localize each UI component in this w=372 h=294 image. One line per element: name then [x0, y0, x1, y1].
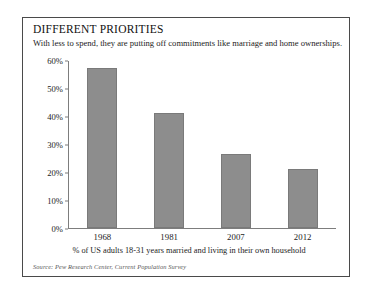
x-axis-tick-label: 2007 — [203, 232, 270, 242]
bar-series — [69, 61, 336, 228]
x-axis-tick-label: 1981 — [136, 232, 203, 242]
x-axis-tick-label: 2012 — [269, 232, 336, 242]
y-axis-tick-label: 30% — [47, 140, 63, 150]
x-axis-line — [68, 228, 336, 229]
bar-1981[interactable] — [154, 113, 184, 228]
source-note: Source: Pew Research Center, Current Pop… — [33, 263, 186, 270]
y-axis-tick-label: 40% — [47, 112, 63, 122]
y-axis-tick-mark — [65, 201, 68, 202]
bar-2007[interactable] — [221, 154, 251, 228]
y-axis-tick-mark — [65, 61, 68, 62]
axis-caption: % of US adults 18-31 years married and l… — [33, 246, 345, 255]
bar-slot — [269, 61, 336, 228]
bar-slot — [203, 61, 270, 228]
y-axis-tick-label: 10% — [47, 196, 63, 206]
y-axis-tick-label: 60% — [47, 56, 63, 66]
bar-2012[interactable] — [288, 169, 318, 228]
x-axis-tick-label: 1968 — [69, 232, 136, 242]
chart-figure: DIFFERENT PRIORITIES With less to spend,… — [22, 17, 350, 277]
chart-subtitle: With less to spend, they are putting off… — [33, 38, 345, 48]
x-axis-labels: 1968198120072012 — [69, 232, 336, 242]
bar-slot — [136, 61, 203, 228]
y-axis-tick-mark — [65, 145, 68, 146]
y-axis-tick-label: 20% — [47, 168, 63, 178]
bar-1968[interactable] — [87, 68, 117, 228]
y-axis-tick-label: 0% — [52, 224, 63, 234]
y-axis-tick-mark — [65, 89, 68, 90]
y-axis-tick-mark — [65, 117, 68, 118]
y-axis-tick-mark — [65, 229, 68, 230]
chart-title: DIFFERENT PRIORITIES — [33, 23, 164, 35]
y-axis-tick-label: 50% — [47, 84, 63, 94]
bar-slot — [69, 61, 136, 228]
plot-area: 60%50%40%30%20%10%0% — [68, 61, 336, 229]
y-axis-tick-mark — [65, 173, 68, 174]
